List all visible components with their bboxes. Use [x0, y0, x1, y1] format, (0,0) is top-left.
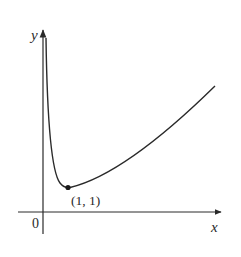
graph-figure: y x 0 (1, 1): [0, 0, 241, 257]
y-axis-label: y: [29, 27, 38, 43]
x-axis-label: x: [210, 219, 218, 235]
minimum-point-marker: [65, 185, 70, 190]
origin-label: 0: [32, 216, 39, 231]
point-label: (1, 1): [71, 193, 100, 208]
function-curve: [46, 38, 215, 188]
